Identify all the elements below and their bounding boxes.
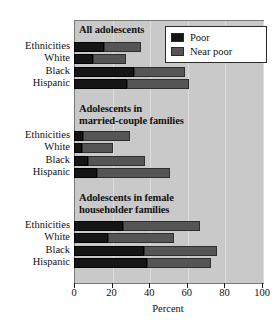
bar-row [74,233,262,243]
x-axis-ticks [74,283,262,288]
bar-segment-poor [74,233,108,243]
legend-item-near-poor: Near poor [171,44,261,58]
category-label-white: White [0,141,70,152]
panel-title-1: Adolescents in married-couple families [79,103,184,126]
x-axis-title: Percent [74,303,262,314]
panel-title-2: Adolescents in female householder famili… [79,192,174,215]
category-label-hispanic: Hispanic [0,77,70,88]
category-label-black: Black [0,65,70,76]
legend-item-poor: Poor [171,30,261,44]
bar-segment-near-poor [123,221,200,231]
bar-segment-near-poor [127,79,189,89]
x-axis-tick-label: 40 [144,287,155,298]
bar-segment-near-poor [134,67,185,77]
bar-segment-poor [74,79,127,89]
legend-label-near-poor: Near poor [190,46,232,57]
bar-segment-poor [74,67,134,77]
category-label-ethnicities: Ethnicities [0,129,70,140]
legend-label-poor: Poor [190,32,210,43]
bar-row [74,156,262,166]
bar-segment-near-poor [82,143,114,153]
bar-segment-near-poor [147,258,211,268]
bar-segment-poor [74,42,104,52]
bar-segment-near-poor [97,168,170,178]
bar-row [74,79,262,89]
x-axis-tick-label: 0 [71,287,76,298]
bar-segment-poor [74,258,147,268]
category-label-ethnicities: Ethnicities [0,40,70,51]
category-label-white: White [0,52,70,63]
bar-row [74,168,262,178]
category-label-black: Black [0,244,70,255]
bar-row [74,131,262,141]
bar-segment-near-poor [88,156,145,166]
bar-segment-poor [74,131,83,141]
bar-segment-poor [74,143,82,153]
x-axis-tick-label: 100 [254,287,270,298]
legend-swatch-poor-icon [171,33,184,42]
category-label-hispanic: Hispanic [0,166,70,177]
x-axis-tick-label: 80 [219,287,230,298]
legend-swatch-near-poor-icon [171,47,184,56]
category-label-hispanic: Hispanic [0,256,70,267]
legend: Poor Near poor [165,26,267,63]
category-label-white: White [0,231,70,242]
category-label-ethnicities: Ethnicities [0,219,70,230]
bar-segment-poor [74,168,97,178]
bar-row [74,258,262,268]
bar-segment-poor [74,221,123,231]
chart-figure: All adolescentsEthnicitiesWhiteBlackHisp… [0,0,279,329]
bar-segment-poor [74,54,93,64]
bar-segment-near-poor [83,131,130,141]
x-axis-tick-label: 20 [106,287,117,298]
bar-row [74,67,262,77]
bar-row [74,143,262,153]
bar-segment-near-poor [104,42,141,52]
bar-segment-near-poor [144,246,217,256]
category-label-black: Black [0,154,70,165]
bar-segment-near-poor [93,54,126,64]
bar-row [74,246,262,256]
bar-row [74,221,262,231]
bar-segment-near-poor [108,233,174,243]
x-axis-tick-label: 60 [182,287,193,298]
bar-segment-poor [74,246,144,256]
bar-segment-poor [74,156,88,166]
panel-title-0: All adolescents [79,24,144,36]
